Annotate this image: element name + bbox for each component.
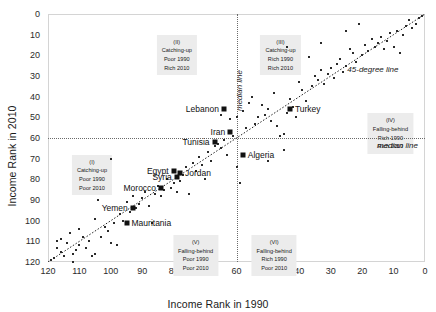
data-point bbox=[239, 182, 241, 184]
quadrant-roman: (III) bbox=[265, 38, 295, 47]
data-point bbox=[352, 52, 354, 54]
y-tick-90: 90 bbox=[14, 195, 40, 205]
y-tick-0: 0 bbox=[14, 9, 40, 19]
data-point bbox=[107, 230, 109, 232]
quadrant-line-1: Catching-up bbox=[162, 46, 192, 55]
data-point bbox=[66, 242, 68, 244]
country-label-mauritania: Mauritania bbox=[132, 218, 172, 228]
data-point bbox=[295, 116, 297, 118]
data-point bbox=[314, 75, 316, 77]
x-tick-120: 120 bbox=[40, 266, 55, 276]
data-point bbox=[389, 32, 391, 34]
data-point bbox=[104, 226, 106, 228]
highlighted-point-algeria bbox=[240, 152, 245, 157]
data-point bbox=[367, 50, 369, 52]
data-point bbox=[408, 19, 410, 21]
data-point bbox=[50, 259, 52, 261]
data-point bbox=[192, 162, 194, 164]
data-point bbox=[264, 114, 266, 116]
data-point bbox=[220, 114, 222, 116]
forty-five-degree-line-label: 45-degree line bbox=[347, 65, 398, 74]
data-point bbox=[305, 100, 307, 102]
plot-area: (I)Catching-upPoor 1990Poor 2010(II)Catc… bbox=[48, 14, 425, 262]
country-label-yemen: Yemen bbox=[102, 203, 128, 213]
quadrant-label-iii: (III)Catching-upRich 1990Rich 2010 bbox=[260, 35, 300, 76]
data-point bbox=[56, 247, 58, 249]
data-point bbox=[345, 65, 347, 67]
quadrant-line-3: Poor 2010 bbox=[77, 184, 107, 193]
quadrant-line-2: Rich 1990 bbox=[257, 255, 292, 264]
data-point bbox=[176, 191, 178, 193]
data-point bbox=[339, 58, 341, 60]
data-point bbox=[358, 23, 360, 25]
data-point bbox=[317, 79, 319, 81]
data-point bbox=[276, 125, 278, 127]
y-tick-70: 70 bbox=[14, 154, 40, 164]
data-point bbox=[201, 164, 203, 166]
data-point bbox=[56, 240, 58, 242]
data-point bbox=[257, 116, 259, 118]
quadrant-line-2: Poor 1990 bbox=[178, 255, 213, 264]
data-point bbox=[336, 63, 338, 65]
data-point bbox=[82, 236, 84, 238]
quadrant-line-3: Poor 2010 bbox=[178, 264, 213, 273]
x-axis-title: Income Rank in 1990 bbox=[0, 298, 436, 310]
data-point bbox=[393, 46, 395, 48]
data-point bbox=[418, 17, 420, 19]
y-tick-50: 50 bbox=[14, 112, 40, 122]
data-point bbox=[355, 61, 357, 63]
chart-figure: Income Rank in 2010 Income Rank in 1990 … bbox=[0, 0, 436, 312]
highlighted-point-turkey bbox=[287, 107, 292, 112]
data-point bbox=[154, 193, 156, 195]
x-tick-60: 60 bbox=[231, 266, 241, 276]
x-tick-30: 30 bbox=[326, 266, 336, 276]
data-point bbox=[301, 89, 303, 91]
data-point bbox=[248, 102, 250, 104]
x-tick-10: 10 bbox=[389, 266, 399, 276]
highlighted-point-syria bbox=[174, 175, 179, 180]
data-point bbox=[236, 116, 238, 118]
data-point bbox=[383, 48, 385, 50]
data-point bbox=[141, 197, 143, 199]
quadrant-line-3: Poor 2010 bbox=[257, 264, 292, 273]
country-label-morocco: Morocco bbox=[124, 183, 157, 193]
data-point bbox=[349, 48, 351, 50]
data-point bbox=[242, 110, 244, 112]
data-point bbox=[298, 81, 300, 83]
data-point bbox=[110, 158, 112, 160]
quadrant-label-i: (I)Catching-upPoor 1990Poor 2010 bbox=[72, 155, 112, 196]
quadrant-line-1: Catching-up bbox=[265, 46, 295, 55]
highlighted-point-mauritania bbox=[124, 220, 129, 225]
quadrant-line-2: Poor 1990 bbox=[77, 175, 107, 184]
quadrant-line-1: Falling-behind bbox=[373, 125, 408, 134]
quadrant-line-2: Poor 1990 bbox=[162, 55, 192, 64]
data-point bbox=[119, 213, 121, 215]
data-point bbox=[327, 73, 329, 75]
country-label-iran: Iran bbox=[211, 127, 226, 137]
quadrant-roman: (IV) bbox=[373, 116, 408, 125]
highlighted-point-morocco bbox=[159, 185, 164, 190]
data-point bbox=[245, 127, 247, 129]
y-tick-20: 20 bbox=[14, 50, 40, 60]
data-point bbox=[116, 244, 118, 246]
y-tick-110: 110 bbox=[14, 236, 40, 246]
highlighted-point-iran bbox=[228, 129, 233, 134]
data-point bbox=[232, 135, 234, 137]
quadrant-line-1: Falling-behind bbox=[178, 247, 213, 256]
data-point bbox=[207, 151, 209, 153]
x-tick-100: 100 bbox=[103, 266, 118, 276]
country-label-algeria: Algeria bbox=[248, 150, 274, 160]
y-tick-30: 30 bbox=[14, 71, 40, 81]
country-label-lebanon: Lebanon bbox=[186, 104, 219, 114]
quadrant-label-v: (V)Falling-behindPoor 1990Poor 2010 bbox=[173, 235, 218, 276]
data-point bbox=[138, 203, 140, 205]
data-point bbox=[53, 257, 55, 259]
data-point bbox=[267, 160, 269, 162]
data-point bbox=[361, 54, 363, 56]
data-point bbox=[342, 71, 344, 73]
data-point bbox=[85, 247, 87, 249]
data-point bbox=[405, 25, 407, 27]
quadrant-line-2: Rich 1990 bbox=[265, 55, 295, 64]
data-point bbox=[320, 69, 322, 71]
data-point bbox=[308, 56, 310, 58]
